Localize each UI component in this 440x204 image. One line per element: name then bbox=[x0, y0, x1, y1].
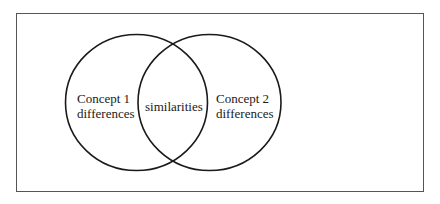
right-set-label: Concept 2 differences bbox=[216, 91, 274, 121]
left-set-label: Concept 1 differences bbox=[77, 91, 135, 121]
right-set-line1: Concept 2 bbox=[216, 91, 274, 106]
left-set-line1: Concept 1 bbox=[77, 91, 135, 106]
left-set-line2: differences bbox=[77, 106, 135, 121]
overlap-text: similarities bbox=[145, 99, 203, 114]
overlap-label: similarities bbox=[145, 99, 203, 114]
right-set-line2: differences bbox=[216, 106, 274, 121]
